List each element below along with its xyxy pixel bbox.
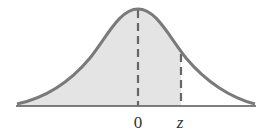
normal-curve-diagram: 0 z [0,0,264,138]
z-label: z [176,113,184,132]
zero-label: 0 [134,113,143,132]
